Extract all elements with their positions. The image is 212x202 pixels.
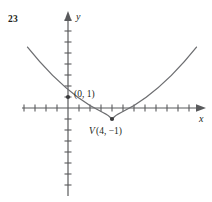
vertex-label-v: V (89, 126, 96, 136)
vertex-label: V (4, −1) (89, 126, 122, 137)
x-axis-label: x (198, 113, 204, 124)
y-intercept-point-marker (66, 95, 70, 99)
parabola-graph: y x (0, 1) V (4, −1) (0, 0, 212, 202)
y-axis-arrow-icon (64, 11, 71, 21)
vertex-point-marker (110, 117, 114, 121)
vertex-label-coords: (4, −1) (96, 126, 122, 137)
x-axis-arrow-icon (196, 104, 206, 111)
y-axis-label: y (75, 11, 81, 22)
figure-container: 23 (0, 0, 212, 202)
y-intercept-label: (0, 1) (74, 89, 95, 100)
